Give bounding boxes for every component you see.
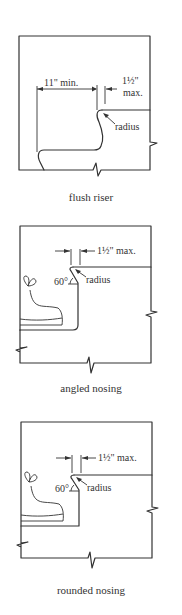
riser-profile bbox=[38, 110, 102, 170]
angle-label: 60° bbox=[55, 483, 69, 494]
nosing-projection-label: 1½" max. bbox=[98, 452, 137, 463]
frame-outline bbox=[17, 422, 158, 568]
angle-label: 60° bbox=[54, 276, 68, 287]
rounded-nosing-figure bbox=[17, 422, 158, 568]
caption-angled-nosing: angled nosing bbox=[0, 382, 182, 394]
nosing-projection-label-line2: max. bbox=[123, 87, 143, 98]
frame-outline bbox=[19, 36, 157, 176]
caption-rounded-nosing: rounded nosing bbox=[0, 584, 182, 596]
frame-outline bbox=[16, 226, 157, 373]
nosing-profile bbox=[20, 267, 78, 330]
arrowhead-icon bbox=[106, 87, 112, 91]
arrowhead-icon bbox=[64, 249, 70, 253]
flush-riser-figure bbox=[19, 36, 157, 176]
arrowhead-icon bbox=[82, 456, 88, 460]
angled-nosing-figure bbox=[16, 226, 157, 373]
arrowhead-icon bbox=[37, 87, 43, 91]
stair-nosing-diagrams: 11" min. 1½" max. radius 1½" max. 60° ra… bbox=[0, 0, 182, 615]
tread-depth-label: 11" min. bbox=[44, 77, 78, 88]
arrowhead-icon bbox=[81, 249, 87, 253]
shoe-icon bbox=[21, 472, 63, 521]
arrowhead-icon bbox=[65, 456, 71, 460]
caption-flush-riser: flush riser bbox=[0, 191, 182, 203]
radius-label: radius bbox=[86, 274, 111, 285]
nosing-projection-label-line1: 1½" bbox=[122, 75, 139, 86]
nosing-projection-label: 1½" max. bbox=[97, 245, 136, 256]
radius-label: radius bbox=[87, 482, 112, 493]
nosing-profile bbox=[21, 475, 79, 526]
radius-label: radius bbox=[115, 121, 140, 132]
